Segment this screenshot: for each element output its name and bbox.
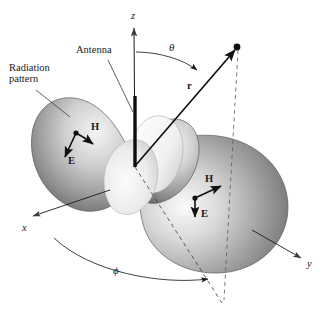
r-vector-label: r	[187, 80, 192, 91]
antenna-radiation-pattern-figure: Radiation pattern Antenna z x y θ ϕ r H …	[0, 0, 327, 314]
e-field-label-left: E	[68, 155, 75, 166]
field-point	[234, 44, 241, 51]
antenna-leader	[108, 60, 133, 112]
radiation-pattern-label: Radiation pattern	[9, 62, 50, 85]
h-field-label-left: H	[91, 121, 99, 132]
theta-angle-label: θ	[169, 42, 174, 54]
z-axis-label: z	[131, 10, 135, 21]
figure-canvas	[0, 0, 327, 314]
e-field-label-right: E	[201, 208, 208, 219]
theta-arc	[136, 52, 197, 70]
h-field-label-right: H	[205, 173, 213, 184]
x-axis-label: x	[22, 222, 27, 233]
y-axis-label: y	[307, 258, 312, 269]
phi-angle-label: ϕ	[113, 265, 119, 277]
antenna-label: Antenna	[76, 44, 112, 55]
